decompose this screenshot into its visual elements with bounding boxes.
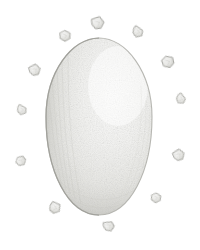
egg-illustration [0,0,200,250]
illustration-canvas: Egg with scattered shell fragments [0,0,200,250]
